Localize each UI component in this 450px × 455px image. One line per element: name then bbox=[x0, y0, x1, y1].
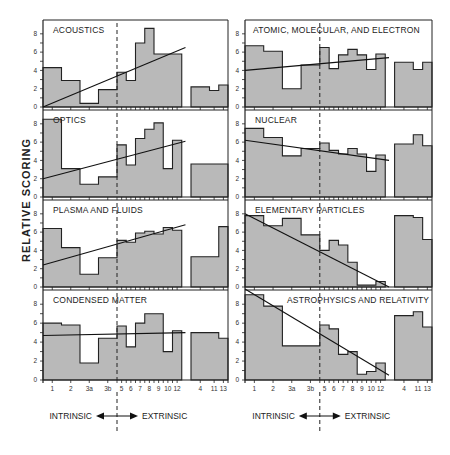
intrinsic-label: INTRINSIC bbox=[50, 411, 93, 421]
x-tick-label: 8 bbox=[148, 385, 152, 392]
y-tick-label: 8 bbox=[235, 30, 239, 37]
arrow-right-icon bbox=[130, 413, 138, 420]
x-tick-label: 12 bbox=[174, 385, 182, 392]
intrinsic-label: INTRINSIC bbox=[252, 411, 295, 421]
y-tick-label: 6 bbox=[33, 48, 37, 55]
y-tick-label: 4 bbox=[33, 67, 37, 74]
chart: 02468ACOUSTICS02468OPTICS02468PLASMA AND… bbox=[0, 0, 450, 455]
x-tick-label: 4 bbox=[198, 385, 202, 392]
extrinsic-label: EXTRINSIC bbox=[345, 411, 390, 421]
y-tick-label: 0 bbox=[235, 283, 239, 290]
x-tick-label: 2 bbox=[271, 385, 275, 392]
y-tick-label: 4 bbox=[235, 338, 239, 345]
bars-group-main bbox=[43, 119, 182, 197]
x-tick-label: 2 bbox=[69, 385, 73, 392]
x-tick-label: 11 bbox=[211, 385, 218, 392]
y-tick-label: 6 bbox=[33, 228, 37, 235]
panel-title: NUCLEAR bbox=[255, 115, 297, 125]
panel-astrophysics-and-relativity: 02468ASTROPHYSICS AND RELATIVITY123a3b56… bbox=[235, 289, 432, 392]
y-tick-label: 4 bbox=[33, 247, 37, 254]
panel-condensed-matter: 02468CONDENSED MATTER123a3b5678910124111… bbox=[33, 290, 228, 392]
panel-plasma-and-fluids: 02468PLASMA AND FLUIDS bbox=[33, 200, 228, 290]
y-tick-label: 8 bbox=[33, 120, 37, 127]
x-tick-label: 6 bbox=[129, 385, 133, 392]
bars-group-main bbox=[43, 314, 182, 380]
x-tick-label: 11 bbox=[415, 385, 422, 392]
x-tick-label: 13 bbox=[424, 385, 432, 392]
arrow-left-icon bbox=[299, 413, 307, 420]
panel-title: ATOMIC, MOLECULAR, AND ELECTRON bbox=[253, 25, 420, 35]
x-tick-label: 8 bbox=[351, 385, 355, 392]
y-tick-label: 6 bbox=[33, 138, 37, 145]
y-tick-label: 8 bbox=[33, 210, 37, 217]
panel-optics: 02468OPTICS bbox=[33, 110, 228, 200]
bars-group-extra bbox=[191, 333, 228, 380]
y-tick-label: 8 bbox=[33, 30, 37, 37]
y-tick-label: 2 bbox=[33, 175, 37, 182]
x-tick-label: 1 bbox=[253, 385, 257, 392]
extrinsic-label: EXTRINSIC bbox=[142, 411, 187, 421]
y-tick-label: 6 bbox=[33, 319, 37, 326]
x-tick-label: 6 bbox=[332, 385, 336, 392]
y-tick-label: 4 bbox=[33, 338, 37, 345]
panel-title: ACOUSTICS bbox=[53, 25, 105, 35]
y-tick-label: 8 bbox=[235, 300, 239, 307]
panel-nuclear: 02468NUCLEAR bbox=[235, 110, 432, 200]
y-tick-label: 0 bbox=[33, 103, 37, 110]
y-tick-label: 2 bbox=[33, 85, 37, 92]
y-tick-label: 8 bbox=[235, 210, 239, 217]
y-tick-label: 0 bbox=[33, 193, 37, 200]
x-tick-label: 3a bbox=[288, 385, 296, 392]
bars-group-main bbox=[245, 216, 385, 287]
y-tick-label: 4 bbox=[235, 67, 239, 74]
panel-title: PLASMA AND FLUIDS bbox=[53, 205, 143, 215]
y-tick-label: 6 bbox=[235, 228, 239, 235]
panel-elementary-particles: 02468ELEMENTARY PARTICLES bbox=[235, 200, 432, 290]
y-tick-label: 0 bbox=[33, 376, 37, 383]
panel-title: CONDENSED MATTER bbox=[53, 295, 147, 305]
intrinsic-extrinsic-legend: INTRINSICEXTRINSICINTRINSICEXTRINSIC bbox=[50, 392, 391, 432]
panels: 02468ACOUSTICS02468OPTICS02468PLASMA AND… bbox=[33, 20, 432, 392]
x-tick-label: 13 bbox=[220, 385, 228, 392]
bars-group-extra bbox=[191, 227, 228, 287]
x-tick-label: 3b bbox=[307, 385, 315, 392]
legend-right: INTRINSICEXTRINSIC bbox=[252, 392, 390, 432]
bars-group-extra bbox=[395, 216, 432, 287]
bars-group-main bbox=[245, 128, 385, 197]
x-tick-label: 3a bbox=[86, 385, 94, 392]
bars-group-main bbox=[43, 228, 182, 287]
y-tick-label: 0 bbox=[235, 376, 239, 383]
panel-acoustics: 02468ACOUSTICS bbox=[33, 20, 228, 110]
y-tick-label: 8 bbox=[33, 300, 37, 307]
y-tick-label: 2 bbox=[235, 357, 239, 364]
bars-group-main bbox=[245, 295, 385, 380]
y-tick-label: 6 bbox=[235, 319, 239, 326]
panel-atomic-molecular-and-electron: 02468ATOMIC, MOLECULAR, AND ELECTRON bbox=[235, 20, 432, 110]
y-tick-label: 0 bbox=[235, 193, 239, 200]
y-axis-label: RELATIVE SCORING bbox=[20, 138, 32, 262]
panel-title: ELEMENTARY PARTICLES bbox=[255, 205, 365, 215]
arrow-left-icon bbox=[96, 413, 104, 420]
x-tick-label: 9 bbox=[157, 385, 161, 392]
legend-left: INTRINSICEXTRINSIC bbox=[50, 392, 188, 432]
bars-group-extra bbox=[395, 312, 432, 380]
x-tick-label: 10 bbox=[164, 385, 172, 392]
bars-group-main bbox=[43, 28, 182, 107]
x-tick-label: 4 bbox=[402, 385, 406, 392]
x-tick-label: 5 bbox=[120, 385, 124, 392]
x-tick-label: 7 bbox=[341, 385, 345, 392]
y-tick-label: 2 bbox=[235, 265, 239, 272]
bars-group-extra bbox=[191, 85, 228, 107]
x-tick-label: 7 bbox=[138, 385, 142, 392]
x-tick-label: 5 bbox=[323, 385, 327, 392]
y-tick-label: 2 bbox=[33, 265, 37, 272]
x-tick-label: 10 bbox=[368, 385, 376, 392]
arrow-right-icon bbox=[333, 413, 341, 420]
x-tick-label: 1 bbox=[50, 385, 54, 392]
x-tick-label: 9 bbox=[360, 385, 364, 392]
bars-group-extra bbox=[191, 164, 228, 197]
y-tick-label: 6 bbox=[235, 48, 239, 55]
y-tick-label: 6 bbox=[235, 138, 239, 145]
y-tick-label: 2 bbox=[33, 357, 37, 364]
x-tick-label: 12 bbox=[377, 385, 385, 392]
